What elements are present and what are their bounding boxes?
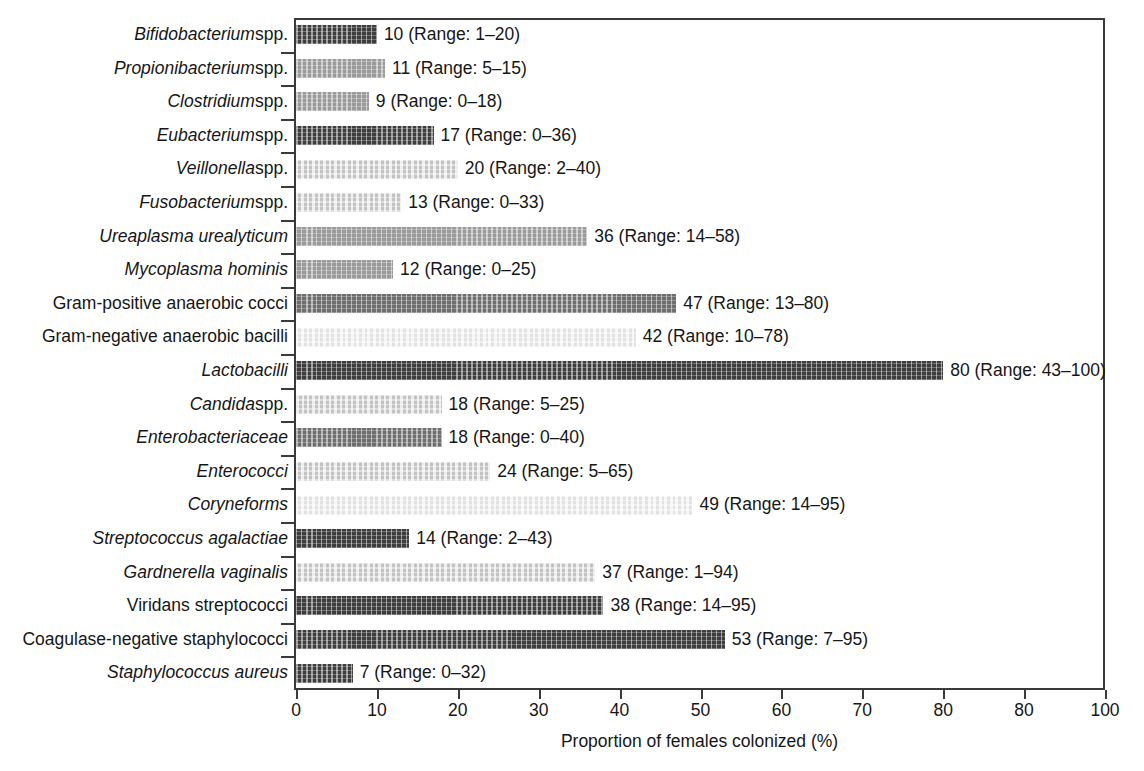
bar-group: 53 (Range: 7–95) bbox=[296, 623, 868, 657]
x-axis-tick-label: 60 bbox=[772, 702, 791, 720]
chart-row: Streptococcus agalactiae14 (Range: 2–43) bbox=[0, 522, 1144, 556]
bar-group: 80 (Range: 43–100) bbox=[296, 354, 1106, 388]
chart-row: Mycoplasma hominis12 (Range: 0–25) bbox=[0, 253, 1144, 287]
x-axis-tick bbox=[458, 690, 460, 699]
category-label-roman: spp. bbox=[255, 26, 288, 44]
category-label-italic: Eubacterium bbox=[157, 127, 255, 145]
bar-group: 14 (Range: 2–43) bbox=[296, 522, 552, 556]
x-axis-tick bbox=[943, 690, 945, 699]
bar-value-label: 47 (Range: 13–80) bbox=[683, 295, 829, 313]
bar-group: 49 (Range: 14–95) bbox=[296, 488, 845, 522]
chart-row: Propionibacterium spp.11 (Range: 5–15) bbox=[0, 52, 1144, 86]
chart-rows: Bifidobacterium spp.10 (Range: 1–20)Prop… bbox=[0, 18, 1144, 690]
x-axis-tick-label: 20 bbox=[448, 702, 467, 720]
bar-value-label: 18 (Range: 0–40) bbox=[449, 429, 585, 447]
bar-value-label: 9 (Range: 0–18) bbox=[376, 93, 502, 111]
category-label-italic: Enterococci bbox=[197, 463, 288, 481]
category-label: Eubacterium spp. bbox=[0, 119, 288, 153]
bar bbox=[296, 328, 636, 347]
category-label-roman: Gram-negative anaerobic bacilli bbox=[42, 328, 288, 346]
category-label: Staphylococcus aureus bbox=[0, 656, 288, 690]
chart-row: Coagulase-negative staphylococci53 (Rang… bbox=[0, 623, 1144, 657]
category-label: Gardnerella vaginalis bbox=[0, 556, 288, 590]
x-axis-tick-label: 40 bbox=[610, 702, 629, 720]
category-label-italic: Clostridium bbox=[167, 93, 255, 111]
category-label: Fusobacterium spp. bbox=[0, 186, 288, 220]
bar bbox=[296, 428, 442, 447]
category-label-roman: spp. bbox=[255, 60, 288, 78]
x-axis-tick bbox=[862, 690, 864, 699]
category-label-italic: Mycoplasma hominis bbox=[125, 261, 288, 279]
category-label: Veillonella spp. bbox=[0, 152, 288, 186]
bar bbox=[296, 92, 369, 111]
category-label: Gram-negative anaerobic bacilli bbox=[0, 320, 288, 354]
chart-row: Lactobacilli80 (Range: 43–100) bbox=[0, 354, 1144, 388]
x-axis-tick bbox=[620, 690, 622, 699]
x-axis-tick bbox=[377, 690, 379, 699]
bar bbox=[296, 361, 943, 380]
bar-group: 12 (Range: 0–25) bbox=[296, 253, 536, 287]
chart-row: Staphylococcus aureus7 (Range: 0–32) bbox=[0, 656, 1144, 690]
bar bbox=[296, 462, 490, 481]
category-label-italic: Bifidobacterium bbox=[134, 26, 255, 44]
bar-value-label: 11 (Range: 5–15) bbox=[392, 60, 527, 78]
chart-row: Viridans streptococci38 (Range: 14–95) bbox=[0, 589, 1144, 623]
x-axis-title: Proportion of females colonized (%) bbox=[294, 731, 1105, 752]
bar-group: 36 (Range: 14–58) bbox=[296, 220, 740, 254]
x-axis-tick-label: 70 bbox=[853, 702, 872, 720]
category-label: Gram-positive anaerobic cocci bbox=[0, 287, 288, 321]
bar-value-label: 10 (Range: 1–20) bbox=[384, 26, 520, 44]
bar-value-label: 42 (Range: 10–78) bbox=[643, 328, 789, 346]
category-label-roman: spp. bbox=[255, 93, 288, 111]
chart-row: Clostridium spp.9 (Range: 0–18) bbox=[0, 85, 1144, 119]
category-label-roman: spp. bbox=[255, 160, 288, 178]
category-label-italic: Streptococcus agalactiae bbox=[92, 530, 288, 548]
chart-row: Enterobacteriaceae18 (Range: 0–40) bbox=[0, 421, 1144, 455]
bar-group: 10 (Range: 1–20) bbox=[296, 18, 520, 52]
category-label: Candida spp. bbox=[0, 388, 288, 422]
chart-row: Gram-positive anaerobic cocci47 (Range: … bbox=[0, 287, 1144, 321]
category-label: Ureaplasma urealyticum bbox=[0, 220, 288, 254]
category-label-italic: Veillonella bbox=[176, 160, 255, 178]
category-label-roman: Coagulase-negative staphylococci bbox=[22, 631, 288, 649]
bar bbox=[296, 664, 353, 683]
x-axis-tick bbox=[1024, 690, 1026, 699]
x-axis-tick-label: 100 bbox=[1090, 702, 1119, 720]
bar-value-label: 13 (Range: 0–33) bbox=[408, 194, 544, 212]
bar-group: 13 (Range: 0–33) bbox=[296, 186, 544, 220]
category-label-roman: spp. bbox=[255, 396, 288, 414]
bar bbox=[296, 563, 595, 582]
bar-value-label: 49 (Range: 14–95) bbox=[699, 496, 845, 514]
bar-group: 37 (Range: 1–94) bbox=[296, 556, 739, 590]
bar-group: 20 (Range: 2–40) bbox=[296, 152, 601, 186]
category-label-roman: Viridans streptococci bbox=[127, 597, 288, 615]
bar-group: 7 (Range: 0–32) bbox=[296, 656, 486, 690]
category-label-roman: spp. bbox=[255, 127, 288, 145]
chart-row: Gram-negative anaerobic bacilli42 (Range… bbox=[0, 320, 1144, 354]
chart-row: Enterococci24 (Range: 5–65) bbox=[0, 455, 1144, 489]
category-label-roman: spp. bbox=[255, 194, 288, 212]
category-label-italic: Ureaplasma urealyticum bbox=[99, 228, 288, 246]
category-label: Viridans streptococci bbox=[0, 589, 288, 623]
bar bbox=[296, 126, 434, 145]
category-label-italic: Fusobacterium bbox=[139, 194, 255, 212]
x-axis-tick bbox=[701, 690, 703, 699]
category-label-italic: Gardnerella vaginalis bbox=[124, 564, 288, 582]
bar bbox=[296, 630, 725, 649]
x-axis-tick-label: 30 bbox=[529, 702, 548, 720]
category-label-italic: Candida bbox=[190, 396, 255, 414]
bar bbox=[296, 59, 385, 78]
bar-value-label: 14 (Range: 2–43) bbox=[416, 530, 552, 548]
category-label: Enterococci bbox=[0, 455, 288, 489]
bar-value-label: 12 (Range: 0–25) bbox=[400, 261, 536, 279]
category-label: Coagulase-negative staphylococci bbox=[0, 623, 288, 657]
bar-group: 47 (Range: 13–80) bbox=[296, 287, 829, 321]
category-label: Mycoplasma hominis bbox=[0, 253, 288, 287]
x-axis-tick bbox=[1105, 690, 1107, 699]
bar bbox=[296, 193, 401, 212]
bar-value-label: 80 (Range: 43–100) bbox=[950, 362, 1106, 380]
bar bbox=[296, 529, 409, 548]
bar-value-label: 7 (Range: 0–32) bbox=[360, 664, 486, 682]
bar-value-label: 38 (Range: 14–95) bbox=[610, 597, 756, 615]
category-label: Coryneforms bbox=[0, 488, 288, 522]
